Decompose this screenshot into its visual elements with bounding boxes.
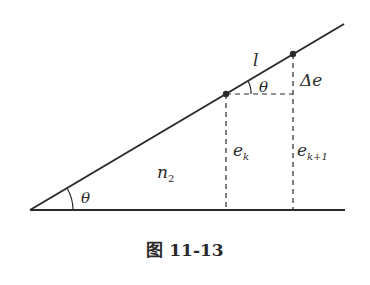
label-n2: n2 [157,162,174,184]
figure-caption: 图 11-13 [146,240,223,260]
diagram-canvas: l θ Δe ek ek+1 n2 θ 图 11-13 [0,0,370,285]
angle-arc-bottom [67,188,73,210]
point-k [223,91,229,97]
label-theta-bottom: θ [81,189,90,207]
label-ek: ek [233,140,249,162]
label-theta-top: θ [259,78,268,96]
angle-arc-top [248,81,251,94]
label-ek1: ek+1 [297,140,328,162]
point-k1 [290,51,296,57]
label-delta-e: Δe [299,70,322,90]
inclined-line [30,24,344,210]
label-l: l [253,50,258,70]
